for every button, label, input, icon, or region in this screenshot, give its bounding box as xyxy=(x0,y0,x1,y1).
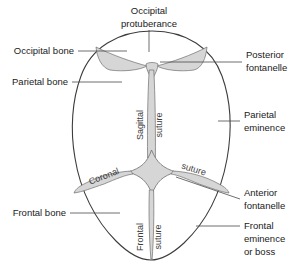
anterior-fontanelle-shape xyxy=(128,150,176,194)
label-parietal-bone: Parietal bone xyxy=(12,76,68,87)
label-posterior-fontanelle-line1: Posterior xyxy=(246,49,284,60)
label-sagittal-suture-word2: suture xyxy=(154,112,164,137)
label-occipital-protuberance-line2: protuberance xyxy=(121,18,177,29)
fetal-skull-illustration: Occipital protuberance Occipital bone Pa… xyxy=(0,0,297,274)
label-frontal-eminence-line2: eminence xyxy=(244,233,285,244)
label-frontal-suture-word1: Frontal xyxy=(135,223,145,251)
lambdoid-suture-left-path xyxy=(96,47,147,71)
label-sagittal-suture-word1: Sagittal xyxy=(135,110,145,140)
lambdoid-suture-right-path xyxy=(157,47,207,71)
fetal-skull-diagram: Occipital protuberance Occipital bone Pa… xyxy=(0,0,297,274)
label-posterior-fontanelle-line2: fontanelle xyxy=(246,62,287,73)
label-anterior-fontanelle-line2: fontanelle xyxy=(244,200,285,211)
label-anterior-fontanelle-line1: Anterior xyxy=(244,187,277,198)
label-frontal-eminence-line1: Frontal xyxy=(244,220,274,231)
label-parietal-eminence-line1: Parietal xyxy=(244,109,276,120)
label-frontal-suture-word2: suture xyxy=(153,224,163,249)
label-frontal-eminence-line3: or boss xyxy=(244,246,275,257)
label-occipital-protuberance-line1: Occipital xyxy=(131,5,167,16)
label-occipital-bone: Occipital bone xyxy=(14,45,74,56)
label-parietal-eminence-line2: eminence xyxy=(244,122,285,133)
label-frontal-bone: Frontal bone xyxy=(13,207,66,218)
